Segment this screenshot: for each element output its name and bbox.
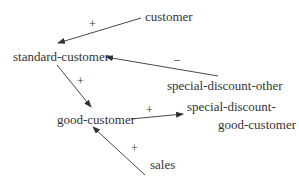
edge-customer-to-standard-customer [58, 18, 141, 43]
edge-good-customer-to-special-discount-good-customer [131, 114, 183, 119]
node-special-discount-good-customer-line1: special-discount- [187, 100, 276, 114]
edge-sign-customer-standard: + [89, 18, 96, 30]
node-customer: customer [145, 10, 193, 24]
node-good-customer: good-customer [57, 113, 135, 127]
edge-sign-sales-good: + [131, 142, 138, 154]
node-sales: sales [150, 158, 175, 172]
edge-sign-sdother-standard: – [174, 53, 180, 65]
node-standard-customer: standard-customer [13, 50, 109, 64]
edge-sign-standard-good: + [77, 75, 84, 87]
edge-special-discount-other-to-standard-customer [106, 57, 218, 76]
node-special-discount-good-customer-line2: good-customer [218, 118, 296, 132]
node-special-discount-other: special-discount-other [167, 79, 283, 93]
edge-sign-good-sdgood: + [146, 104, 153, 116]
diagram-canvas: customer standard-customer special-disco… [0, 0, 299, 180]
edge-standard-customer-to-good-customer [57, 65, 91, 107]
